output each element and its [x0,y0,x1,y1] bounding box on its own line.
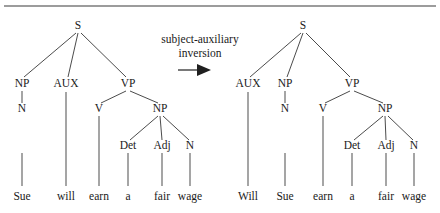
node-label-N1: N [18,102,27,114]
operation-label-line1: subject-auxiliary [161,33,239,46]
leaf-word-a: a [125,190,130,202]
node-label-N1: N [281,102,290,114]
branch-S-VP [81,33,126,77]
leaf-word-Sue: Sue [276,190,293,202]
node-label-Det: Det [344,139,361,151]
leaf-word-wage: wage [178,190,202,203]
branch-S-AUX [250,33,301,77]
node-label-Adj: Adj [377,139,394,152]
node-label-VP: VP [345,77,360,89]
branch-S-VP [306,33,350,77]
branch-NP2-Adj [160,116,162,140]
leaf-word-earn: earn [89,190,109,202]
branch-NP2-Det [354,116,383,140]
branch-VP-V [101,91,126,103]
node-label-NP1: NP [15,77,30,89]
syntax-tree-figure: SNPAUXVPNVNPDetAdjNSuewillearnafairwageS… [0,0,440,213]
leaf-word-Sue: Sue [13,190,30,202]
node-label-AUX: AUX [54,77,80,89]
node-label-NP1: NP [278,77,293,89]
branch-NP2-N2 [163,116,189,140]
node-label-AUX: AUX [236,77,262,89]
node-label-N2: N [186,139,195,151]
branch-VP-V [325,91,350,103]
node-label-N2: N [410,139,419,151]
operation-annotation: subject-auxiliary inversion [161,33,239,76]
node-label-VP: VP [121,77,136,89]
node-label-Det: Det [120,139,137,151]
result-tree: SAUXNPVPNVNPDetAdjNWillSueearnafairwage [236,19,427,203]
node-label-NP2: NP [153,102,168,114]
leaf-word-fair: fair [154,190,170,202]
branch-NP2-Adj [385,116,386,140]
node-label-V: V [95,102,104,114]
branch-S-NP1 [287,33,303,77]
branch-NP2-Det [130,116,158,140]
node-label-Adj: Adj [153,139,170,152]
node-label-S: S [300,19,306,31]
tree-diagram-canvas: SNPAUXVPNVNPDetAdjNSuewillearnafairwageS… [0,0,440,213]
node-label-NP2: NP [378,102,393,114]
node-label-S: S [75,19,81,31]
leaf-word-wage: wage [402,190,426,203]
branch-S-AUX [68,33,78,77]
leaf-word-Will: Will [238,190,258,202]
leaf-word-fair: fair [378,190,394,202]
branch-S-NP1 [24,33,76,77]
branch-NP2-N2 [388,116,413,140]
operation-label-line2: inversion [179,47,222,59]
source-tree: SNPAUXVPNVNPDetAdjNSuewillearnafairwage [13,19,202,203]
node-label-V: V [319,102,328,114]
leaf-word-earn: earn [313,190,333,202]
leaf-word-a: a [349,190,354,202]
transform-arrow-head [197,64,211,76]
leaf-word-will: will [57,190,75,202]
